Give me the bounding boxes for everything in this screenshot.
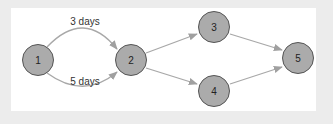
edge-label-3-days: 3 days bbox=[70, 16, 99, 27]
node-4: 4 bbox=[199, 76, 230, 107]
node-5: 5 bbox=[283, 43, 314, 74]
network-diagram: 3 days 5 days 1 2 3 4 5 bbox=[0, 0, 333, 124]
node-1-label: 1 bbox=[35, 55, 41, 66]
node-3-label: 3 bbox=[211, 22, 217, 33]
node-1: 1 bbox=[23, 45, 54, 76]
edge-4-5 bbox=[230, 67, 282, 84]
node-3: 3 bbox=[199, 12, 230, 43]
node-2-label: 2 bbox=[128, 55, 134, 66]
edge-2-3 bbox=[146, 34, 197, 53]
edge-2-4 bbox=[146, 68, 197, 84]
edge-1-2-upper bbox=[47, 28, 117, 49]
edge-label-5-days: 5 days bbox=[70, 76, 99, 87]
node-2: 2 bbox=[116, 45, 147, 76]
edge-3-5 bbox=[230, 34, 282, 50]
node-5-label: 5 bbox=[295, 53, 301, 64]
node-4-label: 4 bbox=[211, 86, 217, 97]
